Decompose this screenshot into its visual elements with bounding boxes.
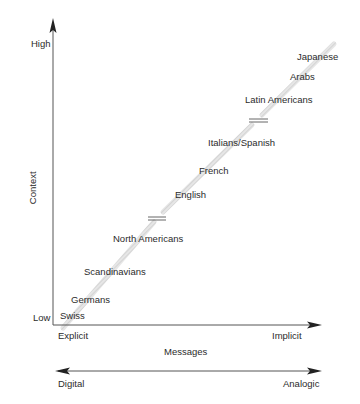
x-axis-title: Messages bbox=[164, 347, 207, 357]
y-axis-high-label: High bbox=[31, 39, 51, 49]
culture-label-north-americans: North Americans bbox=[113, 234, 183, 244]
x-axis-end-label: Implicit bbox=[272, 331, 302, 341]
culture-label-latin-americans: Latin Americans bbox=[245, 95, 313, 105]
culture-label-arabs: Arabs bbox=[290, 72, 315, 82]
break-mark-upper bbox=[249, 119, 268, 122]
analogic-label: Analogic bbox=[283, 379, 319, 389]
digital-label: Digital bbox=[58, 379, 84, 389]
culture-label-french: French bbox=[199, 166, 229, 176]
y-axis bbox=[50, 18, 57, 325]
culture-label-english: English bbox=[175, 190, 206, 200]
culture-label-italians-spanish: Italians/Spanish bbox=[208, 138, 275, 148]
x-axis bbox=[53, 322, 322, 329]
context-diagram: High Low Context Explicit Implicit Messa… bbox=[0, 0, 360, 404]
culture-label-japanese: Japanese bbox=[297, 52, 338, 62]
break-mark-lower bbox=[148, 217, 166, 220]
x-axis-start-label: Explicit bbox=[58, 331, 88, 341]
diagonal-band bbox=[63, 44, 334, 328]
culture-label-scandinavians: Scandinavians bbox=[84, 267, 146, 277]
y-axis-title: Context bbox=[28, 171, 38, 204]
digital-analogic-scale bbox=[55, 368, 322, 375]
culture-label-swiss: Swiss bbox=[60, 311, 85, 321]
culture-label-germans: Germans bbox=[71, 295, 110, 305]
y-axis-low-label: Low bbox=[33, 313, 50, 323]
